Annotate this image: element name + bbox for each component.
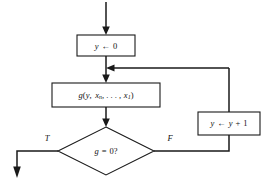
decision-label: g=0? <box>94 145 117 155</box>
connector-init-to-compute <box>102 56 110 83</box>
arrowhead-entry <box>102 27 110 36</box>
branch-label-false: F <box>166 133 173 143</box>
arrowhead-into-compute <box>102 75 110 84</box>
arrowhead-into-decision <box>102 119 110 128</box>
branch-label-true: T <box>45 133 51 143</box>
connector-true-branch <box>13 151 58 178</box>
init-box-label: y←0 <box>94 40 118 50</box>
node-increment-y[interactable]: y←y+1 <box>198 112 260 135</box>
connector-entry <box>102 2 110 35</box>
arrowhead-exit-true <box>13 167 21 179</box>
flowchart-diagram: y←0 g(y, xn, . . . , x1) g=0? <box>0 0 276 184</box>
node-decision-g-equals-zero[interactable]: g=0? <box>58 127 154 175</box>
connector-compute-to-decision <box>102 107 110 127</box>
connector-false-branch <box>154 135 229 151</box>
flowchart-canvas: y←0 g(y, xn, . . . , x1) g=0? <box>0 0 276 184</box>
node-compute-g[interactable]: g(y, xn, . . . , x1) <box>52 83 160 107</box>
compute-box-label: g(y, xn, . . . , x1) <box>79 90 134 100</box>
connector-feedback-loop <box>106 64 229 71</box>
node-init-assignment[interactable]: y←0 <box>77 35 135 56</box>
arrowhead-feedback <box>106 64 115 71</box>
